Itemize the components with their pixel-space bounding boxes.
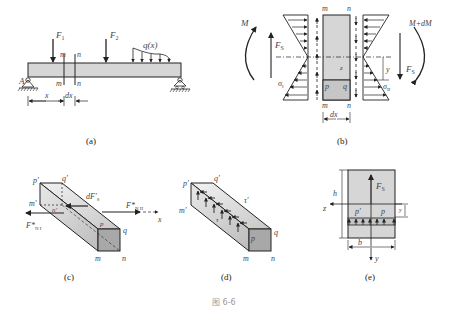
- label-n: n: [271, 254, 275, 263]
- label-n-bot: n: [77, 79, 81, 88]
- figure-6-6: F1 F2 q(x) m n m n A: [0, 0, 458, 325]
- label-m-bot: m: [56, 79, 62, 88]
- label-p-prime: p′: [354, 207, 361, 216]
- label-sigma1: σI: [278, 79, 284, 89]
- label-m-prime: m′: [179, 206, 187, 215]
- caption-c: (c): [64, 272, 74, 282]
- label-f1: F1: [55, 30, 65, 41]
- label-y-small: y: [398, 207, 402, 213]
- label-m-top: m: [322, 4, 328, 13]
- panel-b: M M+dM FS FS m n m n z p q y σI σII dx (…: [240, 4, 433, 146]
- beam: [28, 63, 181, 77]
- label-f2: F2: [109, 30, 119, 41]
- label-dx: dx: [330, 110, 338, 119]
- label-q: q: [123, 226, 127, 235]
- label-z: z: [322, 204, 327, 213]
- label-a: A: [18, 76, 25, 86]
- label-b: b: [358, 238, 362, 247]
- label-z: z: [339, 64, 343, 72]
- label-m: M: [240, 18, 249, 28]
- label-n-bot: n: [347, 101, 351, 110]
- label-m-bot: m: [322, 101, 328, 110]
- panel-a: F1 F2 q(x) m n m n A: [18, 30, 190, 146]
- label-h: h: [333, 189, 337, 198]
- panel-c: p′ q′ m′ n′ dF′S F*N I F*N II x p q m n …: [25, 174, 162, 282]
- label-x: x: [44, 91, 49, 100]
- label-q-prime: q′: [214, 174, 220, 183]
- caption-a: (a): [86, 136, 96, 146]
- label-q: q: [343, 82, 347, 91]
- roller-support-b: [170, 78, 190, 92]
- panel-e: h y b FS z p′ p y (e): [322, 170, 408, 282]
- stress-distribution-left: [283, 15, 308, 100]
- moment-m-dm-arrow: [414, 27, 425, 80]
- label-p: p: [99, 220, 104, 228]
- label-y: y: [374, 254, 379, 263]
- label-q: q: [274, 228, 278, 237]
- label-m: m: [95, 254, 101, 263]
- caption-b: (b): [337, 136, 348, 146]
- label-q-prime: q′: [62, 174, 68, 183]
- label-p: p: [324, 82, 329, 91]
- label-tau-prime: τ′: [244, 196, 249, 205]
- label-p: p: [380, 207, 385, 216]
- label-dfs: dF′S: [86, 192, 100, 202]
- moment-m-arrow: [245, 27, 256, 80]
- label-y: y: [385, 65, 390, 74]
- label-m: m: [243, 254, 249, 263]
- label-fn2: F*N II: [125, 201, 143, 211]
- caption-e: (e): [365, 272, 375, 282]
- label-x: x: [157, 215, 162, 224]
- label-fs-left: FS: [274, 40, 284, 51]
- label-dx: dx: [65, 91, 73, 100]
- prism-end-face: [98, 229, 120, 251]
- label-p-prime: p′: [32, 176, 39, 185]
- label-n-top: n: [347, 4, 351, 13]
- label-n-prime: n′: [52, 206, 58, 214]
- distributed-load-q: [133, 48, 170, 62]
- label-n-top: n: [77, 50, 81, 59]
- label-n: n: [122, 254, 126, 263]
- label-m-prime: m′: [29, 199, 37, 208]
- label-q: q(x): [143, 40, 158, 50]
- label-p-prime: p′: [182, 179, 189, 188]
- label-sigma2: σII: [383, 82, 391, 92]
- figure-caption: 图 6-6: [212, 298, 236, 307]
- label-fs-right: FS: [405, 64, 415, 75]
- caption-d: (d): [221, 272, 232, 282]
- label-p: p: [250, 234, 255, 243]
- label-m-top: m: [60, 50, 66, 59]
- panel-d: p′ q′ m′ τ′ τ p q m n (d): [179, 174, 278, 282]
- label-fn1: F*N I: [25, 221, 42, 231]
- label-m-dm: M+dM: [408, 19, 433, 28]
